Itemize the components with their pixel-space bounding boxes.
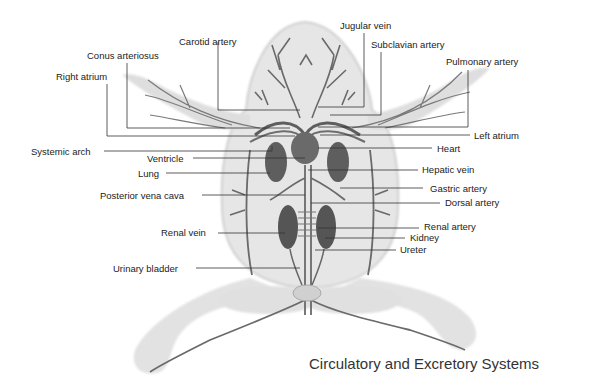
label-renal-vein: Renal vein — [161, 227, 206, 238]
kidney-left — [278, 205, 298, 249]
label-urinary-bladder: Urinary bladder — [113, 263, 178, 274]
label-gastric-artery: Gastric artery — [430, 183, 487, 194]
label-kidney: Kidney — [410, 232, 439, 243]
label-pulmonary-artery: Pulmonary artery — [446, 56, 518, 67]
kidney-right — [316, 205, 336, 249]
label-conus-arteriosus: Conus arteriosus — [87, 50, 159, 61]
label-systemic-arch: Systemic arch — [31, 146, 91, 157]
heart-shape — [291, 132, 319, 164]
figure-title: Circulatory and Excretory Systems — [309, 355, 539, 372]
label-dorsal-artery: Dorsal artery — [445, 197, 499, 208]
label-renal-artery: Renal artery — [424, 221, 476, 232]
label-carotid-artery: Carotid artery — [179, 36, 237, 47]
label-left-atrium: Left atrium — [474, 130, 519, 141]
label-hepatic-vein: Hepatic vein — [422, 164, 474, 175]
label-ventricle: Ventricle — [147, 153, 183, 164]
label-lung: Lung — [138, 168, 159, 179]
label-heart: Heart — [437, 143, 460, 154]
lung-left — [265, 142, 287, 182]
label-ureter: Ureter — [400, 244, 426, 255]
label-posterior-vena-cava: Posterior vena cava — [100, 190, 184, 201]
label-jugular-vein: Jugular vein — [340, 20, 391, 31]
urinary-bladder-shape — [293, 285, 321, 301]
label-subclavian-artery: Subclavian artery — [371, 39, 444, 50]
label-right-atrium: Right atrium — [56, 71, 107, 82]
